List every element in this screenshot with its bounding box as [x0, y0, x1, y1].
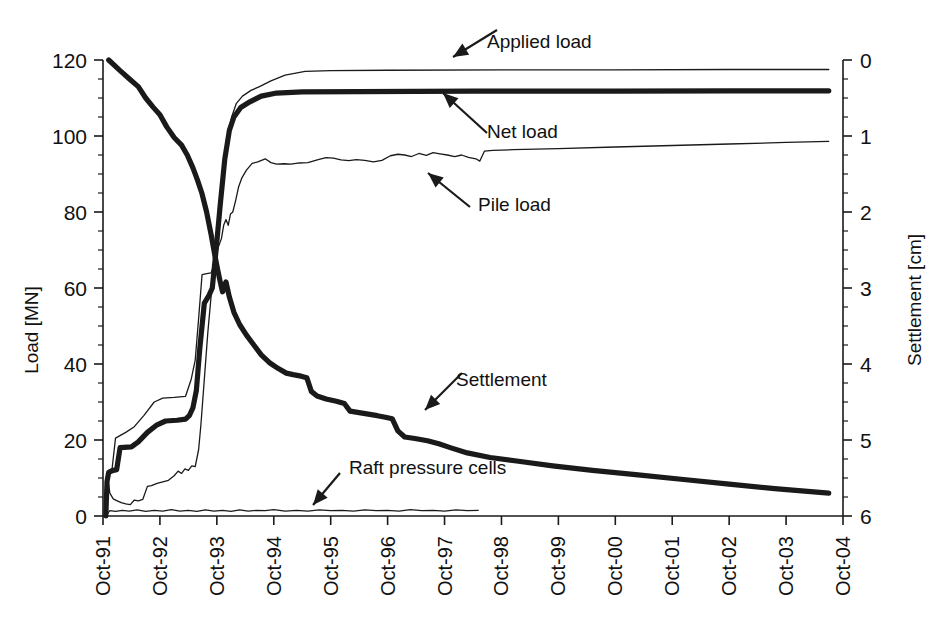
y-tick-label: 60 — [64, 277, 87, 300]
x-tick-label: Oct-03 — [775, 536, 797, 596]
x-tick-label: Oct-95 — [320, 536, 342, 596]
y-tick-label: 80 — [64, 201, 87, 224]
y-tick-label: 0 — [75, 505, 87, 528]
y2-tick-label: 4 — [860, 353, 872, 376]
y2-tick-label: 5 — [860, 429, 872, 452]
annotation-label: Raft pressure cells — [349, 457, 506, 478]
x-tick-label: Oct-99 — [547, 536, 569, 596]
annotation-label: Net load — [487, 121, 558, 142]
x-tick-label: Oct-02 — [718, 536, 740, 596]
y-tick-label: 120 — [52, 49, 87, 72]
x-tick-label: Oct-96 — [377, 536, 399, 596]
x-tick-label: Oct-98 — [490, 536, 512, 596]
x-tick-label: Oct-04 — [832, 536, 854, 596]
x-tick-label: Oct-00 — [604, 536, 626, 596]
annotation-label: Settlement — [456, 369, 548, 390]
y2-tick-label: 0 — [860, 49, 872, 72]
y2-tick-label: 3 — [860, 277, 872, 300]
x-tick-label: Oct-91 — [92, 536, 114, 596]
y-axis-title: Load [MN] — [21, 286, 42, 374]
annotation-label: Applied load — [487, 31, 592, 52]
y2-tick-label: 6 — [860, 505, 872, 528]
x-tick-label: Oct-93 — [206, 536, 228, 596]
load-settlement-chart: 0204060801001200123456Oct-91Oct-92Oct-93… — [0, 0, 939, 624]
x-tick-label: Oct-94 — [263, 536, 285, 596]
y2-tick-label: 2 — [860, 201, 872, 224]
y2-axis-title: Settlement [cm] — [904, 234, 925, 366]
annotation-label: Pile load — [478, 194, 551, 215]
y-tick-label: 20 — [64, 429, 87, 452]
x-tick-label: Oct-01 — [661, 536, 683, 596]
x-tick-label: Oct-92 — [149, 536, 171, 596]
chart-figure: 0204060801001200123456Oct-91Oct-92Oct-93… — [0, 0, 939, 624]
y2-tick-label: 1 — [860, 125, 872, 148]
y-tick-label: 100 — [52, 125, 87, 148]
y-tick-label: 40 — [64, 353, 87, 376]
x-tick-label: Oct-97 — [434, 536, 456, 596]
